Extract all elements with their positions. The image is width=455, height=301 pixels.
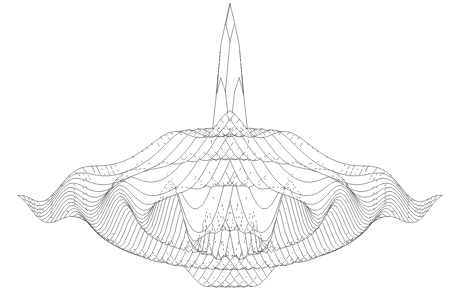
surface-plot-figure — [0, 0, 455, 301]
plot-background — [0, 0, 455, 301]
wireframe-mesh-canvas — [0, 0, 455, 301]
